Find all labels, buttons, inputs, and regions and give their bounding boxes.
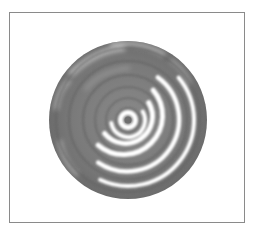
center-dot — [125, 117, 132, 124]
disk — [49, 41, 207, 199]
concentric-disk-figure — [0, 0, 256, 229]
